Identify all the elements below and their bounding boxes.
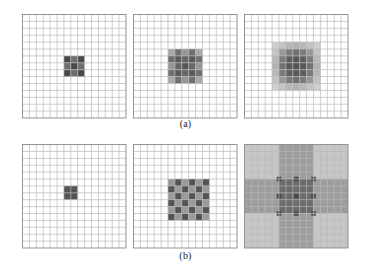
heatmap-cell <box>175 186 182 193</box>
heatmap-cell <box>189 214 196 221</box>
panel-grid-b1 <box>22 144 127 249</box>
heatmap-cell <box>175 56 182 63</box>
heatmap-cell <box>168 70 175 77</box>
heatmap-cell <box>272 56 279 63</box>
panel-cells-a2 <box>168 49 203 84</box>
heatmap-cell <box>307 49 314 56</box>
heatmap-cell <box>196 63 203 70</box>
heatmap-cell <box>182 56 189 63</box>
heatmap-cell <box>272 70 279 77</box>
heatmap-cell <box>182 214 189 221</box>
panel-b3 <box>244 144 349 249</box>
heatmap-cell <box>286 42 293 49</box>
heatmap-cell <box>78 56 85 63</box>
panel-grid-a3 <box>244 14 349 119</box>
heatmap-cell <box>168 186 175 193</box>
heatmap-cell <box>279 77 286 84</box>
heatmap-cell <box>189 200 196 207</box>
heatmap-cell <box>203 207 210 214</box>
heatmap-cell <box>196 70 203 77</box>
heatmap-cell <box>168 56 175 63</box>
heatmap-cell <box>182 77 189 84</box>
heatmap-cell <box>196 56 203 63</box>
caption-row-b: (b) <box>0 250 371 261</box>
heatmap-cell <box>189 63 196 70</box>
panel-grid-a1 <box>22 14 127 119</box>
heatmap-cell <box>189 70 196 77</box>
heatmap-cell <box>314 77 321 84</box>
heatmap-cell <box>196 200 203 207</box>
heatmap-cell <box>293 56 300 63</box>
heatmap-cell <box>293 49 300 56</box>
heatmap-cell <box>286 49 293 56</box>
heatmap-cell <box>196 49 203 56</box>
heatmap-cell <box>203 186 210 193</box>
heatmap-cell <box>189 193 196 200</box>
heatmap-cell <box>286 70 293 77</box>
heatmap-cell <box>293 70 300 77</box>
heatmap-cell <box>279 145 314 180</box>
heatmap-cell <box>196 77 203 84</box>
heatmap-cell <box>182 49 189 56</box>
heatmap-cell <box>175 207 182 214</box>
heatmap-cell <box>189 49 196 56</box>
panel-cells-a1 <box>64 56 85 77</box>
heatmap-cell <box>168 179 175 186</box>
heatmap-cell <box>314 56 321 63</box>
heatmap-cell <box>196 207 203 214</box>
heatmap-cell <box>307 63 314 70</box>
figure-row-a <box>0 8 371 130</box>
heatmap-cell <box>245 214 280 249</box>
panel-grid-b2 <box>133 144 238 249</box>
heatmap-cell <box>182 200 189 207</box>
heatmap-cell <box>189 179 196 186</box>
heatmap-cell <box>64 70 71 77</box>
heatmap-cell <box>293 63 300 70</box>
heatmap-cell <box>307 84 314 91</box>
heatmap-cell <box>78 70 85 77</box>
heatmap-cell <box>279 63 286 70</box>
heatmap-cell <box>300 63 307 70</box>
heatmap-cell <box>168 200 175 207</box>
heatmap-cell <box>293 84 300 91</box>
heatmap-cell <box>182 207 189 214</box>
heatmap-cell <box>175 214 182 221</box>
heatmap-cell <box>189 77 196 84</box>
heatmap-cell <box>189 207 196 214</box>
panel-grid-b3 <box>244 144 349 249</box>
heatmap-cell <box>182 193 189 200</box>
heatmap-cell <box>300 56 307 63</box>
heatmap-cell <box>293 77 300 84</box>
heatmap-cell <box>272 84 279 91</box>
heatmap-cell <box>314 49 321 56</box>
panel-b2 <box>133 144 238 249</box>
panel-a1 <box>22 14 127 119</box>
heatmap-cell <box>300 84 307 91</box>
heatmap-cell <box>300 42 307 49</box>
panel-b1 <box>22 144 127 249</box>
figure-row-b <box>0 138 371 260</box>
heatmap-cell <box>307 77 314 84</box>
heatmap-cell <box>175 193 182 200</box>
heatmap-cell <box>279 42 286 49</box>
heatmap-cell <box>286 63 293 70</box>
heatmap-cell <box>300 77 307 84</box>
heatmap-cell <box>168 63 175 70</box>
heatmap-cell <box>175 179 182 186</box>
heatmap-cell <box>314 145 349 180</box>
panel-grid-a2 <box>133 14 238 119</box>
heatmap-cell <box>196 179 203 186</box>
heatmap-cell <box>314 179 349 214</box>
heatmap-cell <box>314 214 349 249</box>
heatmap-cell <box>314 63 321 70</box>
heatmap-cell <box>245 179 280 214</box>
heatmap-cell <box>189 186 196 193</box>
heatmap-cell <box>189 56 196 63</box>
panel-a3 <box>244 14 349 119</box>
figure-canvas: (a) (b) <box>0 0 371 277</box>
heatmap-cell <box>168 214 175 221</box>
caption-row-a: (a) <box>0 118 371 129</box>
heatmap-cell <box>175 63 182 70</box>
heatmap-cell <box>314 42 321 49</box>
heatmap-cell <box>279 84 286 91</box>
